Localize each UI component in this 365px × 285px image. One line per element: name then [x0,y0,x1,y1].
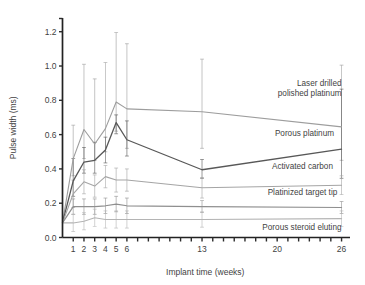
error-bars-2 [71,165,343,207]
y-tick-label: 1.2 [45,27,57,37]
pulse-width-line-chart: 0.00.20.40.60.81.01.2123456132026Implant… [0,0,365,285]
series-label-1: Porous platinum [275,129,334,138]
error-bars-3 [71,196,343,214]
y-tick-label: 0.0 [45,233,57,243]
series-label-0: Laser drilled [297,79,342,88]
x-tick-label: 4 [103,244,108,254]
x-tick-label: 5 [114,244,119,254]
chart-canvas: 0.00.20.40.60.81.01.2123456132026Implant… [0,0,365,285]
x-tick-label: 1 [71,244,76,254]
x-tick-label: 6 [125,244,130,254]
x-tick-label: 20 [272,244,282,254]
x-tick-label: 26 [337,244,347,254]
series-label-0: polished platinum [278,89,342,98]
y-axis-title: Pulse width (ms) [8,96,18,159]
series-label-4: Porous steroid eluting [262,223,342,232]
series-label-3: Platinized target tip [268,188,338,197]
y-tick-label: 0.6 [45,130,57,140]
x-tick-label: 13 [197,244,207,254]
error-bars-1 [71,89,343,196]
y-tick-label: 0.8 [45,95,57,105]
y-tick-label: 1.0 [45,61,57,71]
x-tick-label: 3 [92,244,97,254]
x-tick-label: 2 [82,244,87,254]
y-tick-label: 0.2 [45,198,57,208]
y-tick-label: 0.4 [45,164,57,174]
x-axis-title: Implant time (weeks) [166,267,245,277]
series-label-2: Activated carbon [272,162,333,171]
